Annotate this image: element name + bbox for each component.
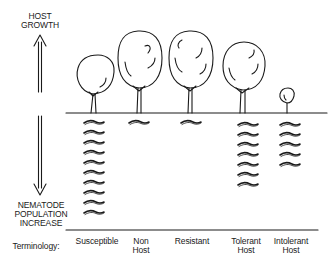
term-label: Host bbox=[226, 246, 266, 255]
nematodes-susceptible bbox=[84, 121, 104, 215]
host-growth-label: HOST GROWTH bbox=[14, 12, 66, 30]
nematode-label-line3: INCREASE bbox=[6, 219, 76, 228]
term-tolerant-host: Tolerant Host bbox=[226, 237, 266, 255]
host-growth-line2: GROWTH bbox=[14, 21, 66, 30]
nematode-increase-label: NEMATODE POPULATION INCREASE bbox=[6, 201, 76, 228]
nematodes-resistant bbox=[181, 121, 201, 125]
double-arrow-icon bbox=[34, 35, 46, 195]
term-label: Susceptible bbox=[70, 237, 124, 246]
tree-icon bbox=[77, 55, 114, 113]
nematodes-nonhost bbox=[129, 121, 149, 125]
term-non-host: Non Host bbox=[124, 237, 158, 255]
nematodes-intolerant bbox=[280, 123, 300, 167]
tree-icon bbox=[118, 31, 162, 113]
nematodes-tolerant bbox=[238, 123, 258, 187]
term-resistant: Resistant bbox=[170, 237, 214, 246]
terminology-label: Terminology: bbox=[6, 242, 66, 251]
tree-icon bbox=[280, 88, 294, 113]
term-label: Resistant bbox=[170, 237, 214, 246]
term-intolerant-host: Intolerant Host bbox=[268, 237, 314, 255]
tree-icon bbox=[223, 42, 265, 113]
term-label: Host bbox=[268, 246, 314, 255]
term-susceptible: Susceptible bbox=[70, 237, 124, 246]
tree-icon bbox=[169, 31, 213, 113]
term-label: Host bbox=[124, 246, 158, 255]
